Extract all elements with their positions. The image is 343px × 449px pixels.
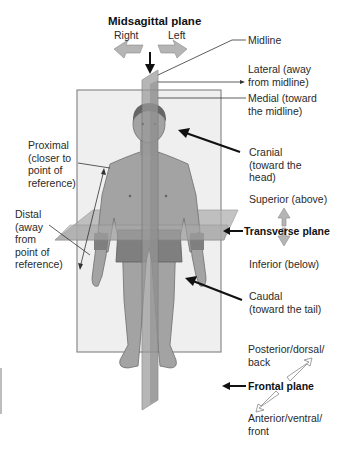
- anterior-label: Anterior/ventral/ front: [248, 412, 322, 437]
- lateral-label: Lateral (away from midline): [248, 63, 311, 88]
- proximal-label: Proximal (closer to point of reference): [28, 139, 76, 189]
- medial-label: Medial (toward the midline): [248, 92, 317, 117]
- transverse-plane-front: [55, 225, 228, 240]
- left-direction-label: Left: [168, 29, 186, 42]
- anterior-arrow-icon: [256, 391, 279, 412]
- right-arrow-icon: [114, 40, 143, 58]
- caudal-label: Caudal (toward the tail): [249, 290, 321, 315]
- right-direction-label: Right: [114, 29, 139, 42]
- superior-arrow-icon: [278, 208, 290, 226]
- superior-label: Superior (above): [249, 193, 327, 206]
- inferior-label: Inferior (below): [249, 258, 319, 271]
- left-arrow-icon: [158, 40, 187, 58]
- cranial-label: Cranial (toward the head): [249, 146, 302, 184]
- midsagittal-plane: [142, 70, 158, 410]
- frontal-plane-label: Frontal plane: [248, 380, 314, 393]
- frontal-pointer-icon: [222, 382, 230, 390]
- midsagittal-plane-label: Midsagittal plane: [108, 15, 201, 28]
- anatomy-diagram: Midsagittal plane Right Left Midline Lat…: [0, 0, 343, 449]
- midline-label: Midline: [248, 34, 281, 47]
- transverse-plane-label: Transverse plane: [244, 225, 330, 238]
- posterior-label: Posterior/dorsal/ back: [248, 343, 324, 368]
- distal-label: Distal (away from point of reference): [15, 208, 63, 271]
